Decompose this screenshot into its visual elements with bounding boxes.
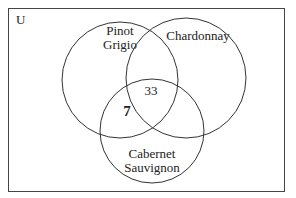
pinot-grigio-label-line2: Grigio	[103, 37, 137, 52]
region-all-three-value: 33	[145, 83, 158, 98]
pinot-grigio-label-line1: Pinot	[106, 23, 134, 38]
universe-label: U	[16, 12, 26, 27]
cabernet-sauvignon-label-line1: Cabernet	[129, 146, 176, 161]
chardonnay-label: Chardonnay	[166, 28, 230, 43]
cabernet-sauvignon-label-line2: Sauvignon	[124, 160, 180, 175]
venn-diagram: U Pinot Grigio Chardonnay Cabernet Sauvi…	[0, 0, 296, 198]
region-pinot-cabernet-value: 7	[123, 103, 131, 119]
